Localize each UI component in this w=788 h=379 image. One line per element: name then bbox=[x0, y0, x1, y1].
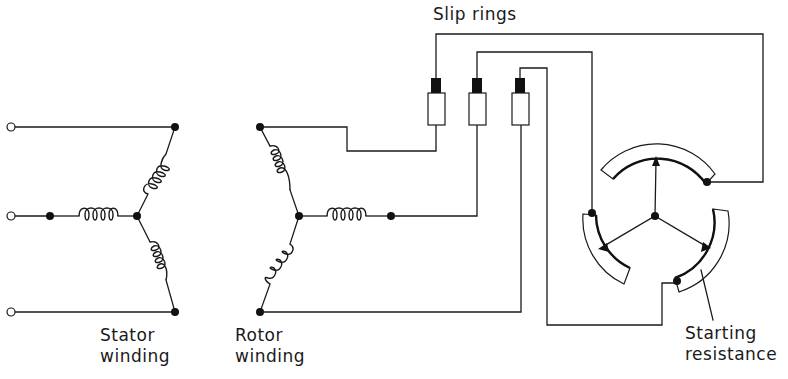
brush-2 bbox=[472, 78, 482, 94]
slip-rings bbox=[428, 78, 529, 125]
starting-resistance-label-line2: resistance bbox=[685, 344, 777, 365]
stator-terminal-1 bbox=[7, 123, 15, 131]
brush-1 bbox=[431, 78, 441, 94]
stator-winding bbox=[7, 123, 179, 316]
starting-resistance-label-line1: Starting bbox=[685, 323, 757, 344]
wire-rotor-right-to-ring-2 bbox=[391, 125, 477, 216]
slip-ring-1 bbox=[428, 78, 445, 125]
resistance-arm-top bbox=[655, 161, 656, 216]
rotor-winding-label-line2: winding bbox=[235, 346, 305, 367]
stator-node-bottom bbox=[171, 308, 179, 316]
segment-left-terminal bbox=[588, 209, 596, 217]
slip-ring-to-resistance-wires bbox=[436, 34, 763, 325]
stator-node-top bbox=[171, 123, 179, 131]
stator-winding-label-line1: Stator bbox=[100, 325, 155, 346]
resistance-arm-right bbox=[655, 216, 704, 245]
rotor-star-point bbox=[295, 212, 303, 220]
stator-star-point bbox=[133, 212, 141, 220]
stator-node-left bbox=[46, 212, 54, 220]
ring-body-2 bbox=[469, 93, 486, 125]
wire-rotor-top-to-ring-1 bbox=[260, 125, 436, 151]
rotor-winding bbox=[256, 123, 395, 316]
segment-right-terminal bbox=[673, 277, 681, 285]
rotor-coil-upper bbox=[270, 146, 290, 190]
segment-top-terminal bbox=[703, 178, 711, 186]
ring-body-3 bbox=[512, 93, 529, 125]
rotor-coil-lower bbox=[265, 244, 293, 284]
stator-coil-upper bbox=[144, 154, 170, 194]
resistance-star-point bbox=[651, 212, 659, 220]
slip-ring-2 bbox=[469, 78, 486, 125]
slip-rings-label: Slip rings bbox=[433, 4, 517, 25]
motor-circuit-diagram bbox=[0, 0, 788, 379]
slip-ring-3 bbox=[512, 78, 529, 125]
brush-3 bbox=[515, 78, 525, 94]
stator-coil-lower bbox=[150, 242, 167, 280]
rotor-coil-horizontal bbox=[327, 208, 366, 220]
stator-terminal-3 bbox=[7, 308, 15, 316]
wire-ring-2-to-segment-left bbox=[477, 52, 592, 213]
rotor-winding-label-line1: Rotor bbox=[235, 325, 283, 346]
resistance-label-leader bbox=[701, 270, 713, 320]
stator-winding-label-line2: winding bbox=[100, 346, 170, 367]
stator-terminal-2 bbox=[7, 212, 15, 220]
stator-coil-horizontal bbox=[79, 208, 118, 220]
ring-body-1 bbox=[428, 93, 445, 125]
wire-ring-3-to-segment-right bbox=[520, 68, 677, 325]
starting-resistance bbox=[583, 144, 729, 320]
resistance-arm-left bbox=[604, 216, 655, 246]
